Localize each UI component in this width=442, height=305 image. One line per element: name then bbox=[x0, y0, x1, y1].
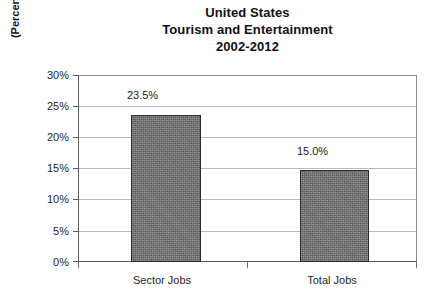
x-axis-label-sector-jobs: Sector Jobs bbox=[92, 274, 232, 286]
y-axis-label-5: 5% bbox=[24, 226, 69, 237]
chart-title-line-2: Tourism and Entertainment bbox=[78, 21, 417, 38]
x-axis-tick-middle bbox=[247, 262, 248, 268]
y-axis-label-10: 10% bbox=[24, 194, 69, 205]
y-axis-label-20: 20% bbox=[24, 132, 69, 143]
gridline-20 bbox=[79, 137, 416, 138]
chart-title: United States Tourism and Entertainment … bbox=[78, 4, 417, 55]
y-axis-label-0: 0% bbox=[24, 257, 69, 268]
gridline-15 bbox=[79, 168, 416, 169]
bar-value-total-jobs: 15.0% bbox=[270, 145, 355, 157]
x-axis-tick-left bbox=[78, 262, 79, 268]
chart-title-line-1: United States bbox=[78, 4, 417, 21]
x-axis-tick-right bbox=[416, 262, 417, 268]
plot-area bbox=[78, 75, 417, 262]
chart-title-line-3: 2002-2012 bbox=[78, 38, 417, 55]
y-axis-label-30: 30% bbox=[24, 70, 69, 81]
bar-total-jobs[interactable] bbox=[300, 170, 369, 262]
y-axis-label-15: 15% bbox=[24, 163, 69, 174]
bar-sector-jobs[interactable] bbox=[131, 115, 201, 262]
y-axis-label-25: 25% bbox=[24, 101, 69, 112]
bar-value-sector-jobs: 23.5% bbox=[100, 89, 185, 101]
gridline-25 bbox=[79, 106, 416, 107]
x-axis-label-total-jobs: Total Jobs bbox=[262, 274, 402, 286]
